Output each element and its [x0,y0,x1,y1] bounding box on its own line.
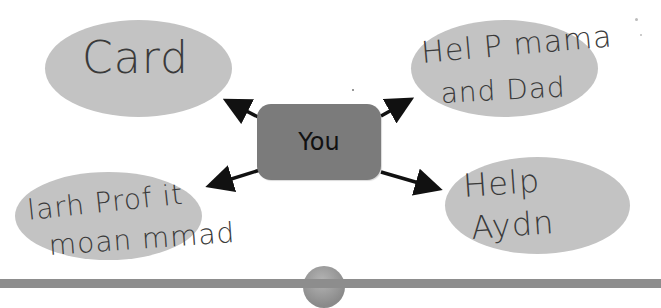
arrow-to-top-left [229,102,260,118]
arrow-to-top-right [381,101,408,116]
node-top-right-text-line2: and Dad [440,73,566,108]
arrow-to-bottom-right [381,172,436,188]
decorative-speck [635,18,638,21]
node-bottom-right-text-line1: Help [462,165,541,202]
center-node: You [257,104,381,180]
node-top-left-text: Card [82,36,189,80]
node-bottom-right-text-line2: Aydn [470,206,555,244]
decorative-speck [352,89,354,91]
arrow-to-bottom-left [212,170,260,185]
center-node-label: You [298,128,339,156]
bottom-bar [0,279,661,288]
decorative-speck [640,34,642,36]
